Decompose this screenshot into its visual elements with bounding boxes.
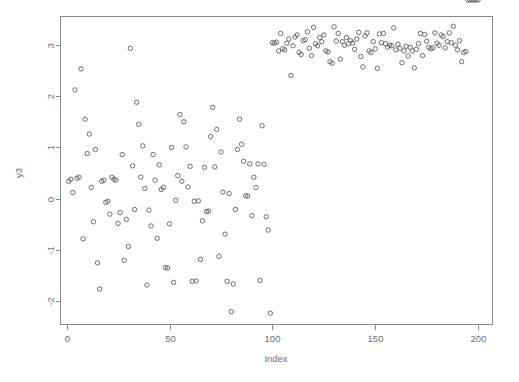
data-point <box>371 39 375 43</box>
data-point <box>414 47 418 51</box>
data-point <box>235 147 239 151</box>
data-point <box>398 46 402 50</box>
data-point <box>215 127 219 131</box>
data-point <box>73 88 77 92</box>
data-point <box>139 175 143 179</box>
data-point <box>231 282 235 286</box>
data-point <box>250 213 254 217</box>
data-point <box>141 144 145 148</box>
data-point <box>116 221 120 225</box>
y-axis-ticks: -2-10123 <box>45 43 61 306</box>
x-tick-label: 150 <box>368 333 384 344</box>
data-point <box>176 173 180 177</box>
data-point <box>344 35 348 39</box>
data-point <box>83 117 87 121</box>
data-point <box>424 39 428 43</box>
data-point <box>81 237 85 241</box>
data-point <box>149 224 153 228</box>
data-point <box>124 217 128 221</box>
data-point <box>412 66 416 70</box>
data-point <box>118 210 122 214</box>
data-point <box>338 57 342 61</box>
data-point <box>219 150 223 154</box>
data-point <box>443 46 447 50</box>
x-tick-label: 50 <box>165 333 176 344</box>
data-point <box>248 162 252 166</box>
data-point <box>400 61 404 65</box>
data-point <box>108 212 112 216</box>
data-point <box>202 165 206 169</box>
data-point <box>392 26 396 30</box>
data-point <box>256 162 260 166</box>
data-point <box>178 112 182 116</box>
x-tick-label: 0 <box>65 333 70 344</box>
x-tick-label: 200 <box>471 333 487 344</box>
data-point <box>334 39 338 43</box>
data-point <box>143 186 147 190</box>
data-point <box>455 48 459 52</box>
data-point <box>239 142 243 146</box>
data-point <box>287 37 291 41</box>
data-point <box>266 228 270 232</box>
data-point <box>153 178 157 182</box>
data-point <box>167 222 171 226</box>
data-points-layer <box>67 0 481 315</box>
data-point <box>433 31 437 35</box>
scatter-plot-figure: 050100150200 -2-10123 Index y3 <box>0 0 519 382</box>
data-point <box>322 33 326 37</box>
plot-canvas: 050100150200 -2-10123 Index y3 <box>0 0 519 382</box>
data-point <box>278 31 282 35</box>
data-point <box>258 278 262 282</box>
data-point <box>174 198 178 202</box>
data-point <box>221 190 225 194</box>
data-point <box>132 207 136 211</box>
data-point <box>451 24 455 28</box>
data-point <box>198 257 202 261</box>
data-point <box>184 145 188 149</box>
data-point <box>252 175 256 179</box>
y-tick-label: -2 <box>45 297 56 305</box>
data-point <box>147 208 151 212</box>
data-point <box>87 132 91 136</box>
data-point <box>422 32 426 36</box>
x-axis-ticks: 050100150200 <box>65 325 487 344</box>
data-point <box>211 105 215 109</box>
data-point <box>217 254 221 258</box>
data-point <box>332 25 336 29</box>
data-point <box>180 179 184 183</box>
data-point <box>305 30 309 34</box>
data-point <box>120 152 124 156</box>
data-point <box>352 47 356 51</box>
data-point <box>375 66 379 70</box>
data-point <box>361 65 365 69</box>
data-point <box>291 44 295 48</box>
data-point <box>71 190 75 194</box>
data-point <box>233 207 237 211</box>
data-point <box>95 261 99 265</box>
data-point <box>447 31 451 35</box>
data-point <box>237 117 241 121</box>
data-point <box>307 46 311 50</box>
data-point <box>136 122 140 126</box>
plot-frame <box>61 17 493 325</box>
data-point <box>200 219 204 223</box>
data-point <box>264 215 268 219</box>
data-point <box>126 244 130 248</box>
data-point <box>171 280 175 284</box>
data-point <box>122 258 126 262</box>
y-tick-label: -1 <box>45 246 56 254</box>
data-point <box>311 25 315 29</box>
data-point <box>97 287 101 291</box>
data-point <box>355 37 359 41</box>
data-point <box>208 134 212 138</box>
data-point <box>89 185 93 189</box>
data-point <box>85 151 89 155</box>
data-point <box>157 163 161 167</box>
data-point <box>134 100 138 104</box>
data-point <box>420 53 424 57</box>
data-point <box>186 185 190 189</box>
data-point <box>260 124 264 128</box>
y-tick-label: 2 <box>45 94 56 99</box>
y-tick-label: 1 <box>45 145 56 150</box>
data-point <box>79 67 83 71</box>
